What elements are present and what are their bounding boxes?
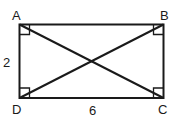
side-label-ad: 2 [3, 56, 10, 69]
vertex-label-d: D [12, 103, 21, 116]
vertex-label-b: B [160, 9, 169, 22]
vertex-label-a: A [12, 9, 21, 22]
side-label-dc: 6 [89, 104, 96, 117]
vertex-label-c: C [158, 103, 167, 116]
